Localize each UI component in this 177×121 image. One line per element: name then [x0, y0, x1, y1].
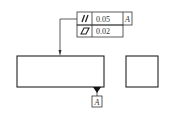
- part-front-view: [17, 56, 104, 87]
- parallelism-datum: A: [124, 15, 130, 24]
- leader-arrow-icon: [59, 50, 62, 56]
- flatness-tolerance: 0.02: [96, 27, 110, 36]
- part-side-view: [126, 56, 158, 87]
- flatness-icon: [81, 28, 89, 34]
- datum-label: A: [94, 98, 100, 107]
- parallelism-tolerance: 0.05: [96, 15, 110, 24]
- gdt-diagram: 0.05 A 0.02 A: [0, 0, 177, 121]
- parallelism-icon: [82, 15, 88, 22]
- leader-line: [60, 19, 77, 52]
